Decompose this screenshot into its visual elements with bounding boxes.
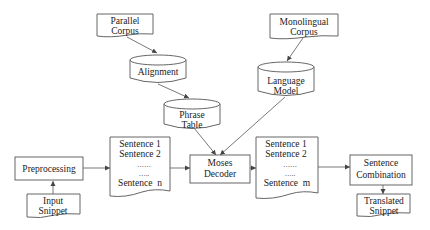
label-line: Table (182, 120, 203, 130)
edge-parallel-to-alignment (127, 37, 157, 53)
label-line: Combination (356, 170, 406, 180)
label-line: Sentence 2 (119, 149, 161, 159)
label-line: Alignment (138, 67, 179, 77)
label-line: Language (267, 76, 304, 86)
label-line: Parallel (110, 16, 139, 26)
label-line: Snippet (369, 206, 398, 216)
node-parallel-corpus: Parallel Corpus (97, 14, 153, 37)
node-sentence-combination: Sentence Combination (350, 155, 412, 185)
node-moses-decoder: Moses Decoder (190, 155, 250, 183)
node-translated-snippet: Translated Snippet (357, 194, 410, 217)
node-preprocessing: Preprocessing (15, 157, 83, 180)
node-monolingual-corpus: Monolingual Corpus (270, 14, 338, 39)
label-line: …… (137, 161, 151, 169)
label-line: Phrase (179, 110, 204, 120)
label-line: ….. (139, 170, 150, 178)
edge-alignment-to-phrase-table (158, 84, 189, 98)
label-line: Model (274, 86, 299, 96)
node-language-model: Language Model (258, 62, 314, 96)
label-line: Sentence m (264, 178, 311, 188)
node-phrase-table: Phrase Table (164, 99, 220, 130)
label-line: Snippet (38, 206, 67, 216)
node-alignment: Alignment (130, 55, 186, 83)
label-line: Translated (364, 196, 404, 206)
label-line: Sentence 1 (265, 139, 307, 149)
label-line: Moses (208, 158, 233, 168)
label-line: Decoder (204, 169, 237, 179)
node-input-snippet: Input Snippet (27, 194, 80, 218)
edge-monolingual-to-language-model (287, 38, 303, 61)
node-source-sentences: Sentence 1 Sentence 2 …… ….. Sentence n (110, 137, 170, 197)
label-line: Sentence 1 (119, 139, 161, 149)
label-line: Monolingual (279, 17, 328, 27)
label-line: Corpus (111, 26, 139, 36)
label-line: Sentence 2 (265, 149, 307, 159)
label-line: Sentence n (118, 178, 162, 188)
edge-phrase-table-to-decoder (194, 128, 216, 155)
label-line: Corpus (290, 27, 318, 37)
label-line: Sentence (364, 158, 398, 168)
label-line: …… (283, 161, 297, 169)
label-line: ….. (285, 170, 296, 178)
label-line: Preprocessing (22, 164, 76, 174)
label-line: Input (43, 196, 63, 206)
pipeline-diagram: Parallel Corpus Alignment Phrase Table M… (0, 0, 430, 230)
node-target-sentences: Sentence 1 Sentence 2 …… ….. Sentence m (256, 137, 318, 199)
